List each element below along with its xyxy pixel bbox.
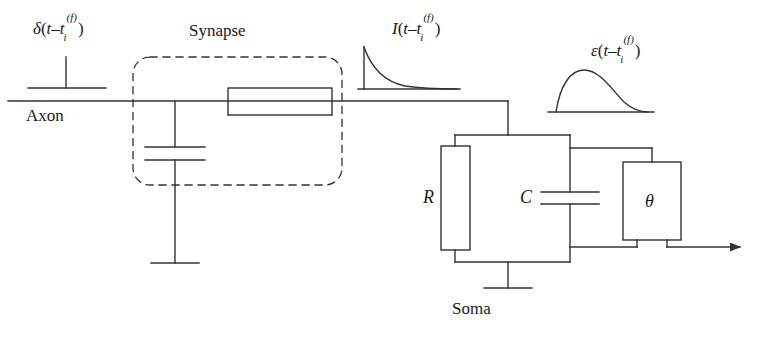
current-minus: – [408, 19, 417, 38]
threshold-label: θ [645, 192, 654, 210]
capacitance-label: C [520, 188, 532, 206]
axon-label: Axon [26, 107, 64, 124]
epsp-subscript: i [620, 53, 623, 65]
epsp-greek: ε [591, 41, 598, 60]
spike-subscript: i [64, 31, 67, 43]
epsp-superscript: (f) [623, 33, 633, 45]
epsp-label: ε(t–ti(f)) [591, 40, 640, 62]
current-label: I(t–ti(f)) [392, 18, 440, 40]
spike-greek: δ [33, 19, 41, 38]
spike-superscript: (f) [67, 11, 77, 23]
synapse-capacitor [145, 101, 205, 263]
synapse-dashed-box [133, 57, 342, 185]
current-subscript: i [420, 31, 423, 43]
spike-input-label: δ(t–ti(f)) [33, 18, 84, 40]
circuit-svg [0, 0, 777, 340]
soma-resistor [441, 135, 470, 262]
resistance-label: R [423, 188, 434, 206]
soma-label: Soma [452, 300, 491, 317]
current-superscript: (f) [423, 11, 433, 23]
spike-minus: – [51, 19, 60, 38]
soma-capacitor [541, 135, 599, 262]
soma-ground-symbol [484, 262, 532, 288]
epsp-close-paren: ) [635, 41, 641, 60]
epsp-minus: – [608, 41, 617, 60]
epsp-waveform [548, 70, 654, 112]
current-waveform [358, 47, 460, 89]
synapse-label: Synapse [189, 22, 246, 39]
output-line [667, 240, 740, 247]
threshold-wiring [570, 148, 652, 247]
current-close-paren: ) [435, 19, 441, 38]
spike-impulse-symbol [28, 57, 106, 88]
spike-close-paren: ) [78, 19, 84, 38]
neuron-circuit-diagram: δ(t–ti(f)) Axon Synapse I(t–ti(f)) ε(t–t… [0, 0, 777, 340]
